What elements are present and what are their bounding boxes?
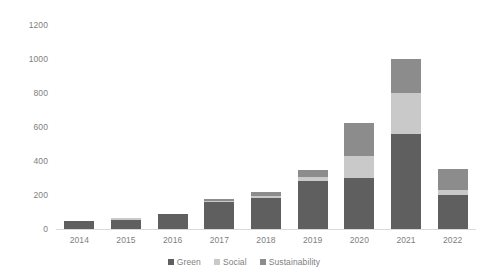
x-axis-labels: 201420152016201720182019202020212022 (56, 233, 476, 249)
bar-slot-2016 (149, 25, 196, 229)
legend-item-sustainability[interactable]: Sustainability (260, 258, 320, 267)
x-tick-label-2016: 2016 (149, 233, 196, 249)
bar-segment-green[interactable] (251, 198, 281, 229)
bar-segment-green[interactable] (111, 220, 141, 229)
bar-slot-2014 (56, 25, 103, 229)
x-tick-label-2019: 2019 (289, 233, 336, 249)
legend-item-social[interactable]: Social (214, 258, 247, 267)
bar-slot-2018 (243, 25, 290, 229)
x-tick-label-2022: 2022 (429, 233, 476, 249)
x-tick-label-2015: 2015 (103, 233, 150, 249)
x-tick-label-2017: 2017 (196, 233, 243, 249)
bar-segment-sustainability[interactable] (438, 169, 468, 190)
y-tick-label-600: 600 (34, 123, 48, 132)
bar-segment-green[interactable] (391, 134, 421, 229)
bar-slot-2020 (336, 25, 383, 229)
bar-slot-2015 (103, 25, 150, 229)
bar-segment-green[interactable] (344, 178, 374, 229)
y-tick-label-1200: 1200 (29, 21, 48, 30)
bar-slot-2022 (429, 25, 476, 229)
legend-swatch-icon (168, 259, 174, 265)
legend-item-green[interactable]: Green (168, 258, 201, 267)
bar-segment-green[interactable] (298, 181, 328, 229)
y-tick-label-1000: 1000 (29, 55, 48, 64)
y-tick-label-0: 0 (43, 225, 48, 234)
legend-label: Green (177, 258, 201, 267)
bar-stack[interactable] (64, 221, 94, 229)
legend-label: Sustainability (269, 258, 320, 267)
bar-segment-green[interactable] (438, 195, 468, 229)
bar-stack[interactable] (111, 218, 141, 229)
bar-stack[interactable] (344, 123, 374, 229)
x-tick-label-2018: 2018 (243, 233, 290, 249)
bar-slot-2019 (289, 25, 336, 229)
bar-stack[interactable] (158, 214, 188, 229)
bar-segment-sustainability[interactable] (298, 170, 328, 177)
y-tick-label-800: 800 (34, 89, 48, 98)
stacked-bar-chart: 0 200 400 600 800 1000 1200 201420152016… (0, 0, 488, 277)
bar-segment-sustainability[interactable] (344, 123, 374, 156)
y-tick-label-200: 200 (34, 191, 48, 200)
x-tick-label-2020: 2020 (336, 233, 383, 249)
bar-slot-2021 (383, 25, 430, 229)
bar-segment-social[interactable] (344, 156, 374, 178)
bar-series-container (56, 25, 476, 229)
bar-stack[interactable] (251, 192, 281, 229)
legend-swatch-icon (214, 259, 220, 265)
legend-label: Social (223, 258, 247, 267)
bar-segment-social[interactable] (391, 93, 421, 134)
bar-slot-2017 (196, 25, 243, 229)
bar-stack[interactable] (204, 199, 234, 229)
x-tick-label-2021: 2021 (383, 233, 430, 249)
bar-segment-green[interactable] (158, 214, 188, 229)
bar-stack[interactable] (391, 59, 421, 229)
bar-segment-sustainability[interactable] (391, 59, 421, 93)
y-axis: 0 200 400 600 800 1000 1200 (0, 0, 56, 277)
bar-segment-green[interactable] (64, 221, 94, 229)
bar-stack[interactable] (298, 170, 328, 229)
y-tick-label-400: 400 (34, 157, 48, 166)
bar-stack[interactable] (438, 169, 468, 229)
x-tick-label-2014: 2014 (56, 233, 103, 249)
legend-swatch-icon (260, 259, 266, 265)
x-axis-line (56, 229, 476, 230)
chart-legend: GreenSocialSustainability (0, 258, 488, 267)
plot-area (56, 25, 476, 229)
bar-segment-green[interactable] (204, 202, 234, 229)
